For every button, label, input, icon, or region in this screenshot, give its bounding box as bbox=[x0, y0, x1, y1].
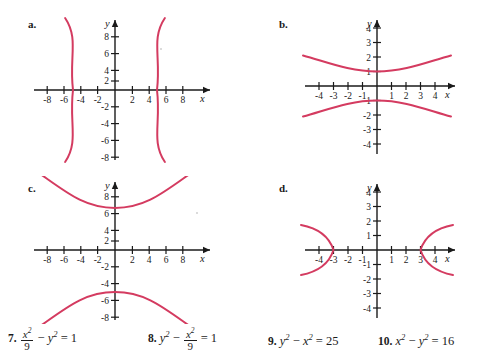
equation-equals: = 1 bbox=[61, 331, 77, 345]
svg-text:-6: -6 bbox=[101, 136, 109, 146]
panel-b-graph: -4 -3 -2 -1 1 2 3 4 4 3 2 1 -1 bbox=[297, 12, 467, 160]
svg-text:2: 2 bbox=[104, 236, 109, 246]
equation-item-8: 8. y2 − x2 9 = 1 bbox=[148, 329, 217, 352]
x-axis-label-c: x bbox=[199, 253, 205, 264]
panel-a-plot: -8 -6 -4 -2 2 4 6 8 8 6 4 2 -2 bbox=[22, 10, 222, 170]
axes-group-d: -4 -3 -2 -1 1 2 3 4 4 3 2 1 -1 bbox=[305, 182, 455, 318]
svg-text:4: 4 bbox=[104, 226, 109, 236]
scan-speck bbox=[196, 212, 198, 214]
equation-equals: = 1 bbox=[201, 331, 217, 345]
y-tick-labels-c: 8 6 4 2 -2 -4 -6 -8 bbox=[101, 192, 109, 323]
svg-text:4: 4 bbox=[104, 66, 109, 76]
y-axis-label-a: y bbox=[104, 18, 110, 29]
axes-group-a: -8 -6 -4 -2 2 4 6 8 8 6 4 2 -2 bbox=[34, 18, 210, 163]
svg-text:-6: -6 bbox=[60, 95, 68, 105]
svg-text:-4: -4 bbox=[315, 91, 323, 101]
y-axis-label-b: y bbox=[366, 18, 372, 29]
svg-text:-4: -4 bbox=[101, 279, 109, 289]
panel-d: d. bbox=[239, 172, 478, 322]
svg-text:-8: -8 bbox=[101, 153, 109, 163]
panel-d-plot: -4 -3 -2 -1 1 2 3 4 4 3 2 1 -1 bbox=[297, 176, 467, 324]
svg-text:2: 2 bbox=[130, 255, 135, 265]
y-axis-arrow-icon bbox=[374, 20, 380, 27]
svg-text:1: 1 bbox=[389, 91, 394, 101]
y-axis-arrow-icon bbox=[112, 182, 118, 189]
svg-text:-4: -4 bbox=[77, 255, 85, 265]
svg-text:-6: -6 bbox=[60, 255, 68, 265]
svg-text:-4: -4 bbox=[363, 140, 371, 150]
equation-number-9: 9. bbox=[268, 335, 277, 347]
y-axis-arrow-icon bbox=[112, 20, 118, 27]
fraction-denominator: 9 bbox=[21, 340, 34, 352]
equation-operator: − bbox=[293, 334, 300, 348]
svg-text:8: 8 bbox=[180, 255, 185, 265]
svg-text:2: 2 bbox=[130, 95, 135, 105]
y-axis-label-d: y bbox=[366, 182, 372, 193]
svg-text:3: 3 bbox=[366, 202, 371, 212]
equation-item-10: 10. x2 − y2 = 16 bbox=[378, 334, 454, 349]
svg-text:2: 2 bbox=[366, 217, 371, 227]
fraction-numerator: x2 bbox=[21, 329, 34, 340]
svg-text:-2: -2 bbox=[344, 255, 352, 265]
svg-text:-2: -2 bbox=[101, 102, 109, 112]
equation-operator: − bbox=[408, 334, 415, 348]
svg-text:3: 3 bbox=[418, 91, 423, 101]
svg-text:-3: -3 bbox=[330, 91, 338, 101]
equation-term-y: y2 bbox=[280, 334, 290, 348]
y-tick-labels-a: 8 6 4 2 -2 -4 -6 -8 bbox=[101, 32, 109, 163]
equation-operator: − bbox=[173, 331, 180, 345]
panel-c-plot: -8 -6 -4 -2 2 4 6 8 8 6 4 2 -2 bbox=[22, 176, 222, 324]
svg-text:-2: -2 bbox=[363, 111, 371, 121]
equation-term-x: x2 bbox=[396, 334, 406, 348]
fraction-numerator: x2 bbox=[184, 329, 197, 340]
svg-text:-6: -6 bbox=[101, 296, 109, 306]
svg-text:4: 4 bbox=[433, 255, 438, 265]
panel-c: c. bbox=[0, 172, 239, 322]
svg-text:2: 2 bbox=[404, 255, 409, 265]
svg-text:4: 4 bbox=[147, 95, 152, 105]
svg-text:4: 4 bbox=[147, 255, 152, 265]
figure-page: a. bbox=[0, 0, 478, 356]
svg-text:8: 8 bbox=[104, 192, 109, 202]
equation-item-9: 9. y2 − x2 = 25 bbox=[268, 334, 339, 349]
panel-a-graph: -8 -6 -4 -2 2 4 6 8 8 6 4 2 -2 bbox=[22, 10, 222, 170]
equation-equals: = 16 bbox=[432, 334, 455, 348]
equation-term-x: x2 bbox=[303, 334, 313, 348]
svg-text:6: 6 bbox=[104, 209, 109, 219]
svg-text:6: 6 bbox=[164, 255, 169, 265]
equation-number-8: 8. bbox=[148, 332, 157, 344]
axes-group-c: -8 -6 -4 -2 2 4 6 8 8 6 4 2 -2 bbox=[34, 180, 210, 323]
equation-number-7: 7. bbox=[8, 332, 17, 344]
panel-c-graph: -8 -6 -4 -2 2 4 6 8 8 6 4 2 -2 bbox=[22, 176, 222, 324]
panel-a: a. bbox=[0, 0, 239, 172]
equation-row: 7. x2 9 − y2 = 1 8. y2 − x2 9 = 1 9. y2 … bbox=[0, 326, 478, 356]
x-axis-label-a: x bbox=[199, 93, 205, 104]
svg-text:-1: -1 bbox=[363, 260, 371, 270]
equation-operator: − bbox=[38, 331, 45, 345]
panel-b: b. bbox=[239, 0, 478, 172]
svg-text:8: 8 bbox=[104, 32, 109, 42]
panel-b-label: b. bbox=[279, 18, 288, 30]
svg-text:4: 4 bbox=[433, 91, 438, 101]
equation-number-10: 10. bbox=[378, 335, 392, 347]
svg-text:1: 1 bbox=[389, 255, 394, 265]
x-axis-label-b: x bbox=[444, 89, 450, 100]
panel-b-plot: -4 -3 -2 -1 1 2 3 4 4 3 2 1 -1 bbox=[297, 12, 467, 160]
svg-text:-4: -4 bbox=[363, 304, 371, 314]
svg-text:2: 2 bbox=[404, 91, 409, 101]
svg-text:6: 6 bbox=[104, 49, 109, 59]
y-axis-label-c: y bbox=[104, 180, 110, 191]
svg-text:-8: -8 bbox=[43, 255, 51, 265]
svg-text:8: 8 bbox=[180, 95, 185, 105]
svg-text:3: 3 bbox=[366, 38, 371, 48]
svg-text:-4: -4 bbox=[315, 255, 323, 265]
svg-text:2: 2 bbox=[366, 53, 371, 63]
svg-text:2: 2 bbox=[104, 76, 109, 86]
svg-text:-4: -4 bbox=[77, 95, 85, 105]
equation-term-y: y2 bbox=[48, 331, 58, 345]
fraction-x2-over-9: x2 9 bbox=[21, 329, 34, 352]
svg-text:-4: -4 bbox=[101, 119, 109, 129]
scan-speck bbox=[160, 48, 162, 50]
x-axis-label-d: x bbox=[444, 253, 450, 264]
svg-text:-2: -2 bbox=[101, 262, 109, 272]
